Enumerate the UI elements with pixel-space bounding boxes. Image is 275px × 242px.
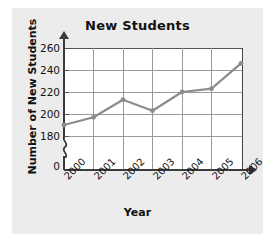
y-axis-arrow-icon	[59, 31, 69, 39]
y-tick-label: 240	[20, 64, 60, 76]
y-tick-label: 180	[20, 130, 60, 142]
data-point	[209, 86, 214, 91]
series-polyline	[64, 63, 241, 125]
y-tick-label-group: 260 240 220 200 180 0	[12, 8, 60, 234]
y-tick-label: 260	[20, 42, 60, 54]
y-tick-label: 220	[20, 86, 60, 98]
y-tick-label: 0	[20, 160, 60, 172]
data-series-line	[64, 48, 244, 170]
data-point	[91, 115, 96, 120]
data-point	[180, 90, 185, 95]
x-axis-title: Year	[12, 206, 263, 219]
data-point	[121, 97, 126, 102]
chart-figure: New Students Number of New Students 260 …	[12, 8, 263, 234]
data-point	[62, 123, 67, 128]
y-tick-label: 200	[20, 108, 60, 120]
data-point	[239, 61, 244, 66]
data-point	[150, 108, 155, 113]
